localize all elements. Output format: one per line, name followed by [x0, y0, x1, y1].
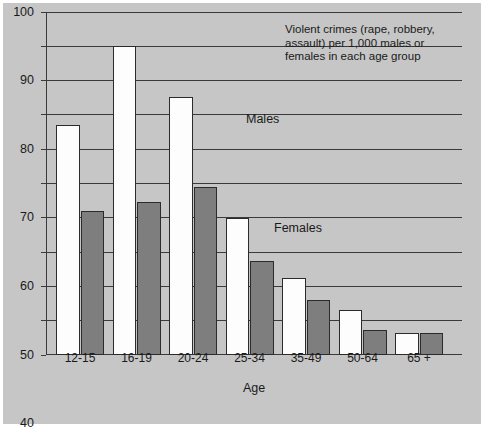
y-axis-tick-label: 70 [20, 211, 34, 224]
x-axis-tick-label: 35-49 [291, 352, 322, 364]
y-axis-tick-label: 90 [20, 74, 34, 87]
y-axis-tick-label: 100 [13, 5, 34, 18]
series-annotation-females: Females [274, 222, 322, 235]
bar-2024-males [169, 97, 193, 355]
chart-caption: Violent crimes (rape, robbery, assault) … [285, 23, 475, 64]
x-axis-title: Age [46, 381, 462, 395]
bar-1619-males [113, 46, 137, 355]
x-axis-tick-label: 16-19 [121, 352, 152, 364]
x-axis-tick-label: 12-15 [65, 352, 96, 364]
chart-figure: 0102030405060708090100 Males Females 12-… [0, 0, 484, 428]
x-axis-tick-label: 25-34 [234, 352, 265, 364]
y-axis-tick-label: 80 [20, 142, 34, 155]
x-axis-tick-label: 20-24 [178, 352, 209, 364]
bar-3549-females [307, 300, 331, 355]
caption-line-2: assault) per 1,000 males or [285, 37, 475, 51]
series-annotation-males: Males [246, 113, 279, 126]
bar-2534-females [250, 261, 274, 355]
bar-5064-males [339, 310, 363, 355]
caption-line-3: females in each age group [285, 50, 475, 64]
y-axis-tick-label: 60 [20, 280, 34, 293]
y-axis-tick-label: 50 [20, 348, 34, 361]
x-axis-tick-label: 65 + [407, 352, 431, 364]
bar-1215-males [56, 125, 80, 355]
bar-1619-females [137, 202, 161, 355]
bar-3549-males [282, 278, 306, 355]
caption-line-1: Violent crimes (rape, robbery, [285, 23, 475, 37]
y-axis-tick-label: 40 [20, 417, 34, 428]
bar-2024-females [194, 187, 218, 355]
bar-2534-males [226, 218, 250, 355]
bar-1215-females [81, 211, 105, 355]
x-axis-tick-label: 50-64 [347, 352, 378, 364]
